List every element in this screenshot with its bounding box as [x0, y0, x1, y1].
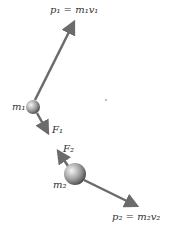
- m2-label: m₂: [53, 180, 67, 190]
- f1-label: F₁: [52, 125, 63, 135]
- f2-label: F₂: [63, 144, 74, 154]
- dot: [105, 99, 107, 101]
- p2-arrow: [84, 180, 137, 206]
- momentum-diagram: p₁ = m₁v₁ m₁ F₁ F₂ m₂ p₂ = m₂v₂: [0, 0, 169, 235]
- mass-1-ball: [26, 100, 40, 114]
- diagram-graphics: [0, 0, 169, 235]
- f1-arrow: [37, 113, 48, 133]
- m1-label: m₁: [12, 102, 26, 112]
- mass-2-ball: [64, 163, 86, 185]
- p1-arrow: [35, 22, 74, 100]
- p2-label: p₂ = m₂v₂: [112, 212, 160, 222]
- p1-label: p₁ = m₁v₁: [50, 5, 98, 15]
